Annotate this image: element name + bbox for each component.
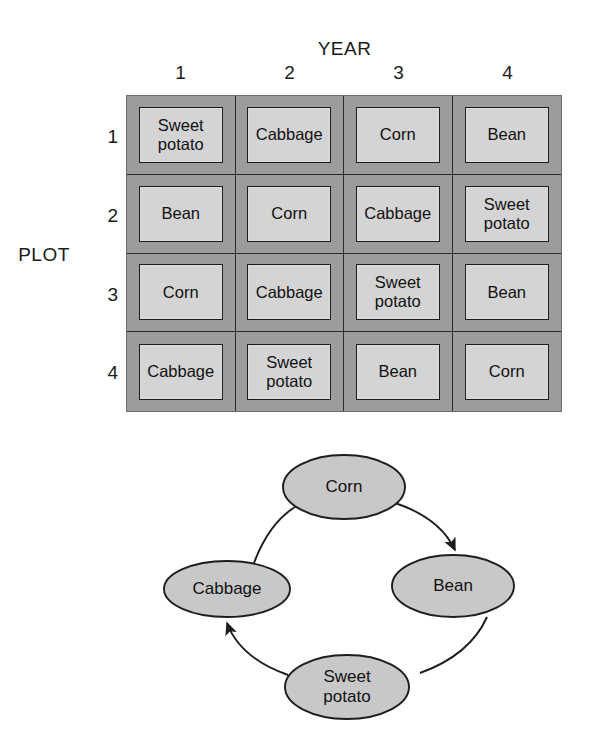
edge-corn-to-bean xyxy=(395,503,455,550)
cycle-diagram-svg xyxy=(0,430,591,729)
grid-cell-p4-y1: Cabbage xyxy=(127,332,236,411)
grid-cell-p4-y2: Sweet potato xyxy=(236,332,345,411)
grid-cell-p2-y3: Cabbage xyxy=(344,175,453,254)
column-header-4: 4 xyxy=(453,62,562,84)
grid-cell-p1-y4: Bean xyxy=(453,96,562,175)
crop-label: Sweet potato xyxy=(247,344,331,400)
row-header-1: 1 xyxy=(96,126,118,148)
column-header-3: 3 xyxy=(344,62,453,84)
grid-cell-p4-y3: Bean xyxy=(344,332,453,411)
grid-cell-p3-y4: Bean xyxy=(453,254,562,333)
grid-cell-p3-y2: Cabbage xyxy=(236,254,345,333)
column-header-2: 2 xyxy=(235,62,344,84)
crop-label: Sweet potato xyxy=(356,264,440,320)
edge-cabbage-to-corn xyxy=(254,504,300,563)
crop-label: Bean xyxy=(465,107,549,163)
column-header-1: 1 xyxy=(126,62,235,84)
node-sweet-potato xyxy=(285,655,409,719)
crop-label: Cabbage xyxy=(247,107,331,163)
grid-cell-p2-y2: Corn xyxy=(236,175,345,254)
row-header-2: 2 xyxy=(96,205,118,227)
node-bean xyxy=(392,555,514,617)
year-axis-title: YEAR xyxy=(0,38,591,60)
crop-label: Corn xyxy=(465,344,549,400)
row-header-3: 3 xyxy=(96,284,118,306)
node-cabbage xyxy=(164,561,290,617)
crop-label: Bean xyxy=(139,186,223,242)
year-axis-title-text: YEAR xyxy=(318,38,372,59)
grid-cell-p1-y1: Sweet potato xyxy=(127,96,236,175)
node-corn xyxy=(283,455,405,519)
crop-label: Corn xyxy=(247,186,331,242)
crop-label: Cabbage xyxy=(356,186,440,242)
crop-label: Cabbage xyxy=(247,264,331,320)
crop-rotation-cycle-diagram: Corn Bean Sweet potato Cabbage xyxy=(0,430,591,729)
crop-label: Corn xyxy=(356,107,440,163)
grid-cell-p1-y3: Corn xyxy=(344,96,453,175)
crop-label: Cabbage xyxy=(139,344,223,400)
grid-cell-p2-y1: Bean xyxy=(127,175,236,254)
crop-label: Sweet potato xyxy=(465,186,549,242)
grid-cell-p3-y1: Corn xyxy=(127,254,236,333)
grid-cell-p2-y4: Sweet potato xyxy=(453,175,562,254)
grid-cell-p1-y2: Cabbage xyxy=(236,96,345,175)
grid-cell-p3-y3: Sweet potato xyxy=(344,254,453,333)
grid-cell-p4-y4: Corn xyxy=(453,332,562,411)
crop-label: Sweet potato xyxy=(139,107,223,163)
edge-sweet-potato-to-cabbage xyxy=(227,623,288,675)
rotation-grid: Sweet potato Cabbage Corn Bean Bean Corn… xyxy=(126,95,562,412)
crop-rotation-figure: YEAR PLOT 1 2 3 4 1 2 3 4 Sweet potato C… xyxy=(0,0,591,729)
crop-label: Bean xyxy=(465,264,549,320)
crop-label: Corn xyxy=(139,264,223,320)
crop-label: Bean xyxy=(356,344,440,400)
edge-bean-to-sweet-potato xyxy=(420,617,487,673)
plot-axis-title: PLOT xyxy=(2,244,86,266)
row-header-4: 4 xyxy=(96,362,118,384)
